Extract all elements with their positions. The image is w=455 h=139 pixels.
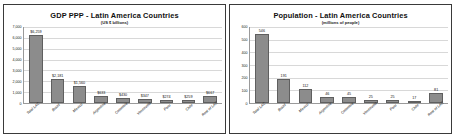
population-bar-group: 546191112464525251781 xyxy=(250,27,448,103)
gdp-bar-rect[interactable] xyxy=(29,35,43,103)
population-y-tick: 200 xyxy=(242,76,248,80)
dual-chart-slide: GDP PPP - Latin America Countries (US $ … xyxy=(0,0,455,139)
population-x-tick-label: Brazil xyxy=(277,103,287,112)
gdp-bar-value-label: $347 xyxy=(141,94,149,98)
population-bar-value-label: 546 xyxy=(259,29,265,33)
gdp-x-slot: Mexico xyxy=(67,104,89,131)
population-y-tick: 400 xyxy=(242,51,248,55)
population-x-slot: Peru xyxy=(382,104,404,131)
gdp-chart-subtitle: (US $ billions) xyxy=(7,20,222,26)
gdp-y-tick: 4,000 xyxy=(13,58,22,62)
population-bar-rect[interactable] xyxy=(277,79,291,103)
population-x-tick-label: Argentina xyxy=(318,102,332,116)
population-x-slot: Chile xyxy=(404,104,426,131)
gdp-bar-rect[interactable] xyxy=(51,79,65,103)
population-bar-item[interactable]: 46 xyxy=(316,27,338,103)
gdp-bar-value-label: $1,560 xyxy=(74,81,85,85)
population-x-slot: Venezuela xyxy=(360,104,382,131)
gdp-bar-value-label: $259 xyxy=(184,95,192,99)
population-bar-item[interactable]: 546 xyxy=(251,27,273,103)
population-bar-item[interactable]: 25 xyxy=(360,27,382,103)
gdp-bar-item[interactable]: $2,181 xyxy=(47,27,69,103)
population-x-axis: Total LACBrazilMexicoArgentinaColombiaVe… xyxy=(249,104,448,131)
gdp-bar-item[interactable]: $6,259 xyxy=(25,27,47,103)
gdp-bar-rect[interactable] xyxy=(73,86,87,103)
gdp-bar-value-label: $274 xyxy=(162,95,170,99)
population-x-tick-label: Rest of LAC xyxy=(427,101,444,117)
gdp-y-tick: 3,000 xyxy=(13,69,22,73)
population-bar-rect[interactable] xyxy=(386,100,400,103)
population-bar-value-label: 25 xyxy=(369,95,373,99)
population-x-slot: Brazil xyxy=(271,104,293,131)
population-bar-rect[interactable] xyxy=(255,34,269,103)
gdp-x-slot: Total LAC xyxy=(23,104,45,131)
population-chart-subtitle: (millions of people) xyxy=(233,20,448,26)
population-y-tick: 500 xyxy=(242,38,248,42)
population-bar-item[interactable]: 112 xyxy=(295,27,317,103)
gdp-bar-value-label: $2,181 xyxy=(52,74,63,78)
gdp-bar-rect[interactable] xyxy=(182,100,196,103)
population-x-tick-label: Mexico xyxy=(298,102,309,113)
gdp-bar-value-label: $6,259 xyxy=(30,30,41,34)
population-x-slot: Colombia xyxy=(337,104,359,131)
gdp-x-slot: Colombia xyxy=(111,104,133,131)
population-x-slot: Total LAC xyxy=(249,104,271,131)
gdp-bar-rect[interactable] xyxy=(160,100,174,103)
population-bar-item[interactable]: 45 xyxy=(338,27,360,103)
gdp-y-tick: 6,000 xyxy=(13,36,22,40)
population-bar-item[interactable]: 25 xyxy=(382,27,404,103)
gdp-bar-value-label: $667 xyxy=(206,91,214,95)
population-bar-value-label: 81 xyxy=(434,88,438,92)
gdp-x-tick-label: Mexico xyxy=(72,102,83,113)
gdp-x-slot: Peru xyxy=(156,104,178,131)
gdp-bar-item[interactable]: $1,560 xyxy=(69,27,91,103)
population-y-axis: 6005004003002001000 xyxy=(233,27,249,104)
population-bar-rect[interactable] xyxy=(408,101,422,103)
population-bar-value-label: 191 xyxy=(281,74,287,78)
population-x-tick-label: Venezuela xyxy=(362,101,378,116)
population-chart-panel: Population - Latin America Countries (mi… xyxy=(229,4,452,134)
gdp-x-tick-label: Colombia xyxy=(115,102,129,115)
gdp-bar-item[interactable]: $633 xyxy=(90,27,112,103)
gdp-x-tick-label: Venezuela xyxy=(136,101,152,116)
population-bar-rect[interactable] xyxy=(342,97,356,103)
gdp-x-axis: Total LACBrazilMexicoArgentinaColombiaVe… xyxy=(23,104,222,131)
gdp-x-slot: Argentina xyxy=(89,104,111,131)
gdp-x-tick-label: Rest of LAC xyxy=(201,101,218,117)
gdp-bar-item[interactable]: $667 xyxy=(199,27,221,103)
gdp-y-tick: 1,000 xyxy=(13,91,22,95)
gdp-plot-area: $6,259$2,181$1,560$633$430$347$274$259$6… xyxy=(23,27,222,104)
gdp-x-slot: Rest of LAC xyxy=(200,104,222,131)
population-bar-item[interactable]: 81 xyxy=(425,27,447,103)
gdp-bar-item[interactable]: $347 xyxy=(134,27,156,103)
population-x-tick-label: Total LAC xyxy=(252,102,267,116)
population-x-tick-label: Peru xyxy=(389,103,397,111)
population-x-tick-label: Colombia xyxy=(341,102,355,115)
population-bar-value-label: 17 xyxy=(412,96,416,100)
gdp-bar-rect[interactable] xyxy=(94,96,108,103)
population-y-tick: 0 xyxy=(246,102,248,106)
gdp-x-slot: Venezuela xyxy=(134,104,156,131)
population-bar-item[interactable]: 17 xyxy=(403,27,425,103)
gdp-bar-value-label: $430 xyxy=(119,93,127,97)
population-x-slot: Argentina xyxy=(315,104,337,131)
gdp-x-tick-label: Brazil xyxy=(51,103,61,112)
gdp-plot-wrap: 7,0006,0005,0004,0003,0002,0001,0000 $6,… xyxy=(7,27,222,104)
gdp-bar-item[interactable]: $274 xyxy=(156,27,178,103)
population-chart-title: Population - Latin America Countries xyxy=(233,11,448,20)
population-x-slot: Mexico xyxy=(293,104,315,131)
gdp-x-slot: Chile xyxy=(178,104,200,131)
population-plot-area: 546191112464525251781 xyxy=(249,27,448,104)
gdp-y-tick: 5,000 xyxy=(13,47,22,51)
gdp-x-tick-label: Argentina xyxy=(92,102,106,116)
population-bar-value-label: 25 xyxy=(391,95,395,99)
population-bar-value-label: 45 xyxy=(347,92,351,96)
population-y-tick: 100 xyxy=(242,89,248,93)
gdp-bar-item[interactable]: $259 xyxy=(177,27,199,103)
population-y-tick: 300 xyxy=(242,64,248,68)
gdp-x-slot: Brazil xyxy=(45,104,67,131)
population-bar-rect[interactable] xyxy=(299,89,313,103)
population-x-tick-label: Chile xyxy=(411,103,420,112)
population-bar-item[interactable]: 191 xyxy=(273,27,295,103)
gdp-bar-item[interactable]: $430 xyxy=(112,27,134,103)
